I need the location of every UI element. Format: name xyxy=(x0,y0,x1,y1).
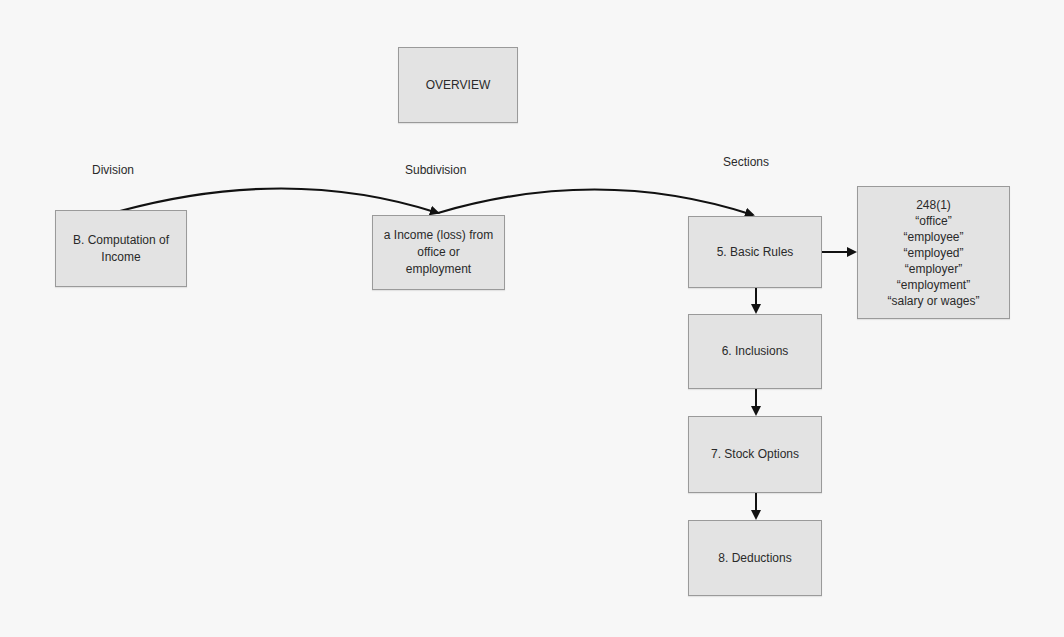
definition-term: “employed” xyxy=(903,245,963,261)
section-label: 8. Deductions xyxy=(718,550,791,567)
definition-term: “office” xyxy=(915,213,951,229)
diagram-canvas: OVERVIEW Division Subdivision Sections B… xyxy=(0,0,1064,637)
division-box-line2: Income xyxy=(101,249,140,266)
section-label: 7. Stock Options xyxy=(711,446,799,463)
sections-label: Sections xyxy=(723,155,769,169)
subdivision-label: Subdivision xyxy=(405,163,466,177)
section-label: 5. Basic Rules xyxy=(717,244,794,261)
subdivision-box-line2: office or xyxy=(417,244,459,261)
section-box-inclusions: 6. Inclusions xyxy=(688,314,822,389)
overview-title: OVERVIEW xyxy=(426,77,490,94)
definition-term: “salary or wages” xyxy=(887,293,979,309)
section-box-basic-rules: 5. Basic Rules xyxy=(688,216,822,288)
definitions-heading: 248(1) xyxy=(916,197,951,213)
subdivision-box-line1: a Income (loss) from xyxy=(384,227,493,244)
section-box-stock-options: 7. Stock Options xyxy=(688,416,822,493)
division-box: B. Computation of Income xyxy=(55,210,187,287)
subdivision-box-line3: employment xyxy=(406,261,471,278)
definition-term: “employer” xyxy=(905,261,962,277)
division-box-line1: B. Computation of xyxy=(73,232,169,249)
definitions-box: 248(1) “office” “employee” “employed” “e… xyxy=(857,186,1010,319)
definition-term: “employee” xyxy=(903,229,963,245)
arrow-subdivision-to-sections xyxy=(438,189,753,215)
division-label: Division xyxy=(92,163,134,177)
definition-term: “employment” xyxy=(897,277,970,293)
section-box-deductions: 8. Deductions xyxy=(688,520,822,596)
overview-title-box: OVERVIEW xyxy=(398,47,518,123)
section-label: 6. Inclusions xyxy=(722,343,789,360)
subdivision-box: a Income (loss) from office or employmen… xyxy=(372,215,505,290)
